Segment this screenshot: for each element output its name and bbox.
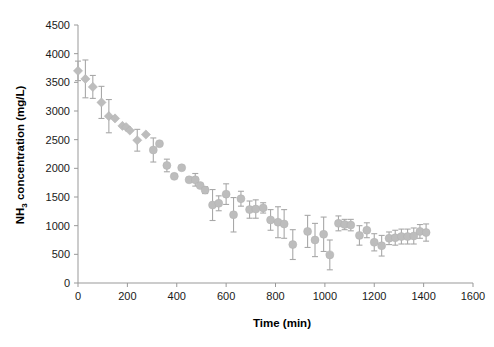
y-tick-label: 500 [52,248,70,260]
data-point-circle [267,216,275,224]
y-tick-label: 4000 [46,48,70,60]
y-axis-tick-labels: 050010001500200025003000350040004500 [46,19,70,289]
data-point-circle [355,231,363,239]
data-point-diamond [88,82,97,91]
y-axis-title-post: concentration (mg/L) [14,86,26,204]
data-point-circle [155,140,163,148]
y-tick-label: 1000 [46,220,70,232]
x-tick-label: 1000 [313,290,337,302]
data-point-diamond [81,74,90,83]
data-point-circle [201,186,209,194]
y-tick-label: 3000 [46,105,70,117]
data-point-circle [311,236,319,244]
error-bars-layer [75,60,429,270]
data-point-diamond [141,130,150,139]
y-tick-label: 0 [64,277,70,289]
data-point-circle [178,164,186,172]
tick-marks-layer [74,25,473,287]
data-point-circle [230,211,238,219]
x-axis-tick-labels: 02004006008001000120014001600 [75,290,485,302]
data-point-circle [289,241,297,249]
data-point-circle [170,172,178,180]
y-tick-label: 1500 [46,191,70,203]
data-point-circle [237,195,245,203]
data-point-circle [378,242,386,250]
y-tick-label: 2500 [46,134,70,146]
x-tick-label: 800 [266,290,284,302]
chart-figure: 050010001500200025003000350040004500 020… [0,0,494,347]
svg-text:NH3 concentration (mg/L): NH3 concentration (mg/L) [14,86,29,225]
y-tick-label: 4500 [46,19,70,31]
scatter-plot-svg: 050010001500200025003000350040004500 020… [0,0,494,347]
data-point-circle [259,204,267,212]
data-point-diamond [97,98,106,107]
y-tick-label: 3500 [46,76,70,88]
data-point-circle [252,205,260,213]
data-point-circle [347,221,355,229]
data-point-circle [320,230,328,238]
data-point-circle [304,227,312,235]
data-point-circle [149,146,157,154]
x-axis-title: Time (min) [253,317,311,329]
x-tick-label: 1400 [411,290,435,302]
data-point-circle [222,190,230,198]
data-point-circle [280,220,288,228]
x-tick-label: 400 [168,290,186,302]
data-point-circle [163,161,171,169]
data-point-circle [422,229,430,237]
data-markers-layer [73,66,430,259]
data-point-circle [326,251,334,259]
data-point-diamond [73,66,82,75]
x-tick-label: 1200 [362,290,386,302]
data-point-diamond [133,136,142,145]
x-tick-label: 600 [217,290,235,302]
x-tick-label: 1600 [461,290,485,302]
x-tick-label: 200 [118,290,136,302]
y-tick-label: 2000 [46,162,70,174]
data-point-circle [363,226,371,234]
y-axis-title: NH3 concentration (mg/L) [14,86,29,225]
y-axis-title-pre: NH [14,208,26,225]
data-point-circle [370,238,378,246]
x-tick-label: 0 [75,290,81,302]
data-point-circle [215,199,223,207]
